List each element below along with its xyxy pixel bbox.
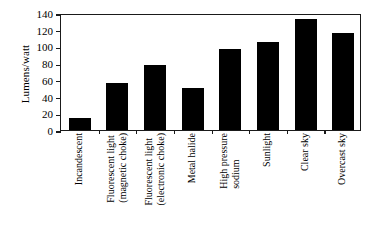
bar-slot [174, 15, 212, 130]
bar-slot [287, 15, 325, 130]
bar [332, 33, 354, 130]
x-axis-label: Fluorescent light(electronic choke) [143, 133, 166, 205]
y-tick-label: 60 [42, 75, 53, 88]
bar [257, 42, 279, 130]
bar-slot [136, 15, 174, 130]
y-tick-label: 120 [37, 25, 54, 38]
x-label-slot: Overcast sky [323, 133, 361, 228]
x-label-slot: Metal halide [173, 133, 211, 228]
x-axis-label: Fluorescent light(magnetic choke) [105, 133, 128, 203]
x-label-slot: High pressuresodium [211, 133, 249, 228]
x-axis-label: Sunlight [261, 133, 273, 167]
y-axis-title: Lumens/watt [18, 26, 32, 122]
x-axis-label: Overcast sky [336, 133, 348, 185]
y-tick-label: 40 [42, 92, 53, 105]
x-label-slot: Fluorescent light(magnetic choke) [98, 133, 136, 228]
bar-chart: Lumens/watt 020406080100120140 Incandesc… [0, 0, 386, 228]
y-tick-label: 0 [48, 125, 54, 138]
x-label-slot: Sunlight [248, 133, 286, 228]
plot-area: 020406080100120140 [60, 14, 361, 131]
y-tick-label: 100 [37, 41, 54, 54]
bar-slot [324, 15, 362, 130]
bar [182, 88, 204, 130]
y-tick-label: 80 [42, 58, 53, 71]
bar [144, 65, 166, 130]
bar [106, 83, 128, 130]
x-label-slot: Incandescent [60, 133, 98, 228]
x-axis-label: High pressuresodium [218, 133, 241, 189]
bar-slot [61, 15, 99, 130]
bar [295, 19, 317, 130]
x-axis-label: Metal halide [186, 133, 198, 183]
x-axis-labels: IncandescentFluorescent light(magnetic c… [60, 133, 361, 228]
x-axis-label: Clear sky [299, 133, 311, 171]
bar [69, 118, 91, 130]
bar [219, 49, 241, 130]
x-label-slot: Clear sky [286, 133, 324, 228]
bar-slot [212, 15, 250, 130]
bars-layer [61, 15, 360, 130]
y-tick-label: 20 [42, 108, 53, 121]
y-tick-label: 140 [37, 8, 54, 21]
bar-slot [249, 15, 287, 130]
bar-slot [99, 15, 137, 130]
x-label-slot: Fluorescent light(electronic choke) [135, 133, 173, 228]
x-axis-label: Incandescent [73, 133, 85, 185]
